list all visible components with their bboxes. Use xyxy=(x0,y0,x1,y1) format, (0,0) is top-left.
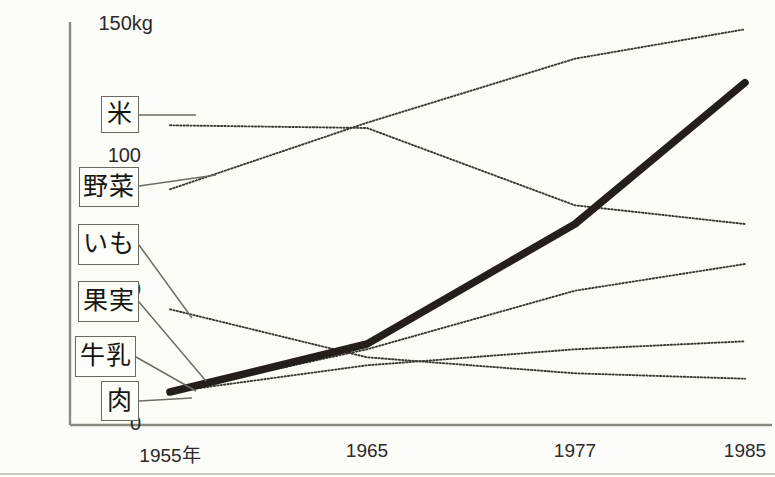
category-label-box-2[interactable]: いも xyxy=(78,224,139,265)
category-label-text: いも xyxy=(83,231,135,256)
category-label-text: 果実 xyxy=(83,288,135,313)
leader-line-fruit xyxy=(139,302,206,381)
chart-caption xyxy=(0,462,775,477)
category-label-text: 牛乳 xyxy=(80,343,132,368)
x-axis-tick-2: 1977 xyxy=(554,440,596,462)
y-axis-tick-100: 100 xyxy=(108,144,141,167)
chart-container: 150kg 100 50 0 1955年196519771985 米野菜いも果実… xyxy=(0,0,775,477)
series-layer xyxy=(170,29,745,392)
category-label-box-1[interactable]: 野菜 xyxy=(79,167,139,207)
x-axis-tick-3: 1985 xyxy=(724,440,766,462)
category-label-text: 肉 xyxy=(107,388,133,413)
category-label-text: 野菜 xyxy=(83,174,135,199)
y-axis-tick-150: 150kg xyxy=(99,12,154,35)
category-label-box-4[interactable]: 牛乳 xyxy=(75,336,136,377)
leader-line-meat xyxy=(139,398,192,401)
series-line-vegetable xyxy=(170,29,745,189)
series-line-milk xyxy=(170,341,745,392)
leader-line-vegetable xyxy=(139,175,216,186)
leader-line-potato xyxy=(139,245,192,318)
series-line-rice xyxy=(170,125,745,224)
category-label-box-5[interactable]: 肉 xyxy=(101,381,139,421)
x-axis-tick-1: 1965 xyxy=(346,440,388,462)
category-label-text: 米 xyxy=(107,101,133,126)
leader-line-milk xyxy=(136,357,196,391)
leader-line-layer xyxy=(136,115,216,401)
category-label-box-0[interactable]: 米 xyxy=(101,96,139,133)
category-label-box-3[interactable]: 果実 xyxy=(78,281,139,322)
